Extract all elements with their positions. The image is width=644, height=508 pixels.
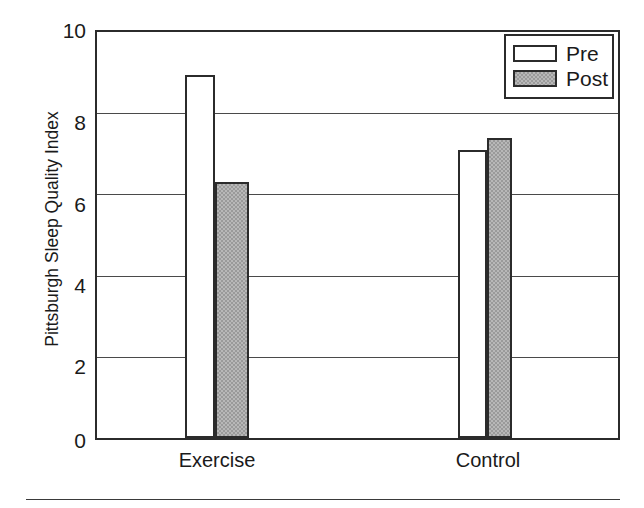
legend-item-pre: Pre xyxy=(513,41,605,66)
y-axis-title: Pittsburgh Sleep Quality Index xyxy=(43,84,61,374)
caption-divider xyxy=(26,499,620,500)
x-tick-label-exercise: Exercise xyxy=(127,449,307,471)
legend-item-post: Post xyxy=(513,66,605,91)
bar-control-pre xyxy=(458,150,487,438)
legend-swatch-pre-icon xyxy=(513,45,557,62)
gridline-y-8 xyxy=(97,113,618,114)
legend-swatch-post-icon xyxy=(513,70,557,87)
x-tick-label-control: Control xyxy=(398,449,578,471)
bar-exercise-post xyxy=(215,182,249,438)
bar-exercise-pre xyxy=(185,75,215,438)
y-tick-label-0: 0 xyxy=(46,430,86,451)
legend-label-post: Post xyxy=(566,68,608,89)
gridline-y-6 xyxy=(97,194,618,195)
figure-panel: 10 8 6 4 2 0 Pittsburgh Sleep Quality In… xyxy=(0,0,644,508)
chart-legend: Pre Post xyxy=(504,34,614,99)
gridline-y-4 xyxy=(97,276,618,277)
gridline-y-2 xyxy=(97,357,618,358)
y-tick-label-10: 10 xyxy=(46,20,86,41)
bar-control-post xyxy=(487,138,512,438)
legend-label-pre: Pre xyxy=(566,43,599,64)
